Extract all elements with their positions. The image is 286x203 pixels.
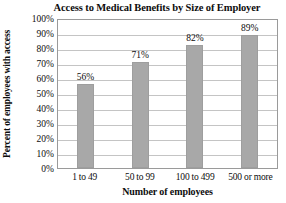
bar-slot: 82% <box>168 20 223 168</box>
bar[interactable]: 56% <box>77 84 94 168</box>
bar-slot: 56% <box>58 20 113 168</box>
x-axis-title: Number of employees <box>57 186 278 198</box>
bar-value-label: 71% <box>131 50 148 61</box>
y-axis-tick-label: 80% <box>18 44 54 54</box>
chart-title: Access to Medical Benefits by Size of Em… <box>30 1 284 14</box>
y-axis-title-text: Percent of employees with access <box>2 30 12 158</box>
bar[interactable]: 71% <box>132 62 149 169</box>
y-axis-tick-label: 10% <box>18 149 54 159</box>
y-axis-tick-label: 20% <box>18 134 54 144</box>
y-axis-tick-label: 70% <box>18 59 54 69</box>
x-axis-tick-label: 1 to 49 <box>57 171 112 184</box>
bar[interactable]: 89% <box>241 35 258 169</box>
bar-series: 56%71%82%89% <box>58 20 277 168</box>
bar-value-label: 89% <box>241 23 258 34</box>
x-axis-tick-label: 100 to 499 <box>168 171 223 184</box>
y-axis-tick-label: 90% <box>18 29 54 39</box>
y-axis-tick-label: 60% <box>18 74 54 84</box>
y-axis-tick-label: 30% <box>18 119 54 129</box>
y-axis-tick-label: 50% <box>18 89 54 99</box>
y-axis-tick-label: 100% <box>18 14 54 24</box>
bar-chart: Access to Medical Benefits by Size of Em… <box>0 0 286 203</box>
x-axis-tick-labels: 1 to 4950 to 99100 to 499500 or more <box>57 171 278 184</box>
y-axis-tick-labels: 100%90%80%70%60%50%40%30%20%10%0% <box>14 19 54 169</box>
bar-slot: 71% <box>113 20 168 168</box>
x-axis-tick-label: 500 or more <box>223 171 278 184</box>
bar-value-label: 56% <box>77 72 94 83</box>
x-axis-tick-label: 50 to 99 <box>112 171 167 184</box>
y-axis-tick-label: 40% <box>18 104 54 114</box>
y-axis-tick-label: 0% <box>18 164 54 174</box>
plot-area: 56%71%82%89% <box>57 19 278 169</box>
y-axis-title: Percent of employees with access <box>0 19 14 169</box>
bar-value-label: 82% <box>186 33 203 44</box>
bar[interactable]: 82% <box>186 45 203 168</box>
bar-slot: 89% <box>222 20 277 168</box>
